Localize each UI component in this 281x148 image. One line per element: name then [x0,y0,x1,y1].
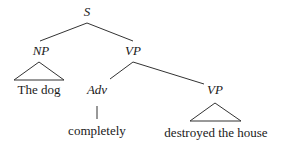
leaf-destroyed-the-house: destroyed the house [164,125,267,140]
node-vp: VP [125,43,141,58]
node-s: S [84,4,91,19]
triangle-np [14,62,64,80]
leaf-completely: completely [68,123,126,138]
edge-s-np [40,23,87,41]
node-adv: Adv [86,82,107,97]
node-np: NP [32,43,50,58]
syntax-tree: S NP VP The dog Adv VP completely destro… [0,0,281,148]
edge-vp-adv [110,62,133,79]
node-vp2: VP [207,82,223,97]
triangle-vp2 [190,103,241,121]
leaf-the-dog: The dog [18,82,61,97]
edge-s-vp [87,23,133,41]
edge-vp-vp2 [133,62,204,84]
